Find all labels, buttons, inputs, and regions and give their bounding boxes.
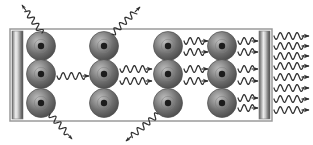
atom-nucleus-dot	[101, 71, 107, 77]
atom-nucleus-dot	[38, 71, 44, 77]
laser-cavity-diagram	[0, 0, 313, 145]
excited-atom	[154, 32, 183, 61]
atom-nucleus-dot	[101, 100, 107, 106]
atom-nucleus-dot	[38, 100, 44, 106]
excited-atom	[154, 89, 183, 118]
excited-atom	[90, 89, 119, 118]
excited-atom	[208, 89, 237, 118]
left-mirror	[12, 31, 23, 119]
excited-atom	[208, 32, 237, 61]
atom-nucleus-dot	[219, 100, 225, 106]
atom-nucleus-dot	[165, 43, 171, 49]
excited-atom	[27, 60, 56, 89]
excited-atom	[90, 60, 119, 89]
excited-atom	[154, 60, 183, 89]
excited-atom	[27, 32, 56, 61]
laser-cavity-figure	[0, 0, 313, 145]
excited-atom	[27, 89, 56, 118]
atom-nucleus-dot	[165, 71, 171, 77]
right-mirror	[259, 31, 270, 119]
atom-nucleus-dot	[101, 43, 107, 49]
atom-nucleus-dot	[165, 100, 171, 106]
excited-atom	[208, 60, 237, 89]
atom-nucleus-dot	[219, 71, 225, 77]
atom-nucleus-dot	[219, 43, 225, 49]
excited-atom	[90, 32, 119, 61]
atom-nucleus-dot	[38, 43, 44, 49]
